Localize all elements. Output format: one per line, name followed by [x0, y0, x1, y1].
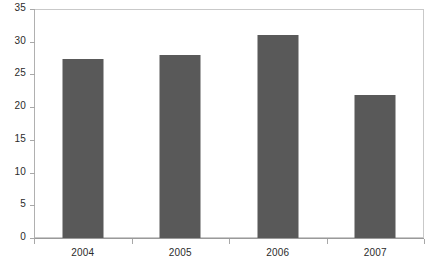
x-axis-label-2005: 2005 [132, 246, 230, 260]
bars-layer [34, 9, 424, 238]
x-axis-tick-mark [229, 239, 230, 244]
x-axis-tick-mark [327, 239, 328, 244]
x-axis-tick-mark [424, 239, 425, 244]
y-axis-tick-label: 30 [14, 35, 26, 47]
bar-2006 [257, 35, 298, 238]
x-axis-tick-mark [34, 239, 35, 244]
y-axis-tick-label: 15 [14, 133, 26, 145]
y-axis-tick-label: 5 [20, 198, 26, 210]
bar-slot [132, 9, 230, 238]
y-axis-tick-label: 20 [14, 100, 26, 112]
y-axis-tick-label: 35 [14, 2, 26, 14]
bar-chart: 05101520253035 2004200520062007 [0, 0, 432, 269]
bar-2007 [355, 95, 396, 238]
x-axis-label-2004: 2004 [34, 246, 132, 260]
x-axis-label-2006: 2006 [229, 246, 327, 260]
bar-slot [229, 9, 327, 238]
x-axis-label-2007: 2007 [327, 246, 425, 260]
x-axis-tick-mark [132, 239, 133, 244]
bar-2005 [160, 55, 201, 238]
y-axis-tick-label: 25 [14, 67, 26, 79]
bar-2004 [62, 59, 103, 238]
bar-slot [34, 9, 132, 238]
bar-slot [327, 9, 425, 238]
y-axis-tick-label: 0 [20, 231, 26, 243]
y-axis-tick-label: 10 [14, 166, 26, 178]
